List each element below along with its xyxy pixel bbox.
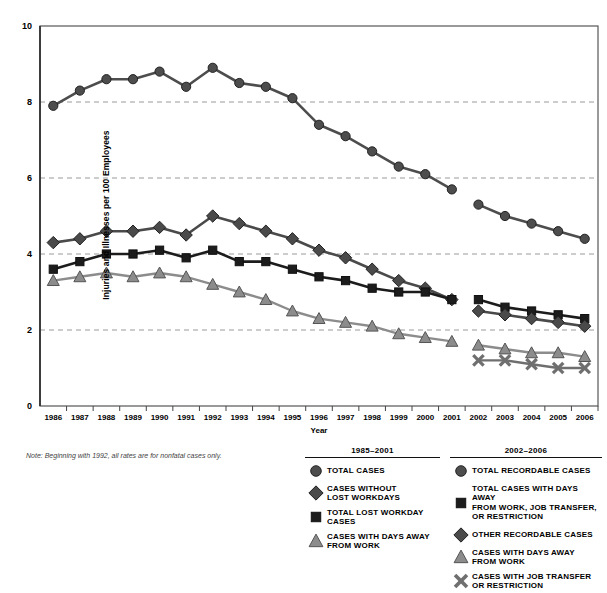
legend-2002-2006: 2002–2006TOTAL RECORDABLE CASESTOTAL CAS…	[450, 446, 602, 593]
circle-marker	[75, 86, 84, 95]
circle-marker	[474, 200, 483, 209]
legend-item-label: CASES WITH JOB TRANSFEROR RESTRICTION	[472, 572, 591, 591]
triangle-marker	[309, 534, 323, 547]
square-marker	[315, 273, 323, 281]
square-marker	[395, 288, 403, 296]
series-7	[472, 339, 590, 361]
circle-marker	[421, 170, 430, 179]
circle-marker	[500, 211, 509, 220]
diamond-marker	[153, 221, 165, 233]
square-marker	[155, 246, 163, 254]
circle-marker	[341, 132, 350, 141]
legend-title: 1985–2001	[305, 446, 440, 455]
circle-marker	[102, 75, 111, 84]
square-marker	[288, 265, 296, 273]
legend-item[interactable]: OTHER RECORDABLE CASES	[450, 527, 602, 543]
legend-item[interactable]: TOTAL CASES	[305, 463, 440, 479]
circle-marker	[155, 67, 164, 76]
legend-item-label: CASES WITHOUTLOST WORKDAYS	[327, 484, 400, 503]
legend-item[interactable]: TOTAL LOST WORKDAYCASES	[305, 508, 440, 527]
circle-marker	[554, 227, 563, 236]
diamond-marker	[313, 244, 325, 256]
square-marker	[182, 254, 190, 262]
diamond-marker	[74, 233, 86, 245]
y-tick-label: 6	[10, 173, 32, 183]
legend-item[interactable]: CASES WITH DAYS AWAYFROM WORK	[450, 548, 602, 567]
circle-marker	[580, 234, 589, 243]
circle-marker	[208, 63, 217, 72]
legend-item[interactable]: CASES WITH JOB TRANSFEROR RESTRICTION	[450, 572, 602, 591]
square-marker	[368, 284, 376, 292]
square-marker	[311, 513, 320, 522]
circle-marker	[447, 185, 456, 194]
series-line	[53, 68, 452, 190]
circle-marker	[261, 82, 270, 91]
circle-marker	[456, 466, 467, 477]
legend-item[interactable]: TOTAL CASES WITH DAYS AWAYFROM WORK, JOB…	[450, 484, 602, 522]
y-tick-label: 10	[10, 21, 32, 31]
series-line	[53, 216, 452, 300]
circle-marker	[314, 120, 323, 129]
circle-marker	[368, 147, 377, 156]
series-line	[53, 273, 452, 341]
square-marker	[341, 277, 349, 285]
legend-item-label: TOTAL CASES	[327, 466, 385, 475]
y-axis-title: Injuries and Illnesses per 100 Employees	[101, 105, 111, 325]
legend-divider	[450, 457, 602, 458]
triangle-marker	[305, 533, 327, 549]
legend-item[interactable]: CASES WITH DAYS AWAYFROM WORK	[305, 532, 440, 551]
diamond-marker	[454, 528, 468, 542]
diamond-marker	[393, 274, 405, 286]
x-axis-title: Year	[299, 426, 339, 435]
square-marker	[421, 288, 429, 296]
diamond-marker	[47, 236, 59, 248]
circle-marker	[49, 101, 58, 110]
circle-marker	[311, 466, 322, 477]
legend-item-label: TOTAL LOST WORKDAYCASES	[327, 508, 424, 527]
diamond-marker	[233, 217, 245, 229]
diamond-marker	[339, 252, 351, 264]
diamond-marker	[450, 527, 472, 543]
diamond-marker	[309, 486, 323, 500]
diamond-marker	[305, 485, 327, 501]
circle-marker	[288, 94, 297, 103]
diamond-marker	[260, 225, 272, 237]
y-tick-label: 8	[10, 97, 32, 107]
y-tick-label: 2	[10, 325, 32, 335]
legend-item[interactable]: CASES WITHOUTLOST WORKDAYS	[305, 484, 440, 503]
diamond-marker	[366, 263, 378, 275]
diamond-marker	[472, 305, 484, 317]
plot-frame	[40, 26, 598, 406]
square-marker	[49, 265, 57, 273]
circle-marker	[182, 82, 191, 91]
square-marker	[209, 246, 217, 254]
legend-item-label: CASES WITH DAYS AWAYFROM WORK	[472, 548, 575, 567]
y-tick-label: 0	[10, 401, 32, 411]
circle-marker	[394, 162, 403, 171]
legend-item-label: TOTAL CASES WITH DAYS AWAYFROM WORK, JOB…	[472, 484, 602, 522]
square-marker	[305, 509, 327, 525]
legend-item-label: CASES WITH DAYS AWAYFROM WORK	[327, 532, 430, 551]
chart-note: Note: Beginning with 1992, all rates are…	[26, 452, 222, 459]
legend-item[interactable]: TOTAL RECORDABLE CASES	[450, 463, 602, 479]
diamond-marker	[127, 225, 139, 237]
y-tick-label: 4	[10, 249, 32, 259]
circle-marker	[450, 463, 472, 479]
square-marker	[448, 296, 456, 304]
legend-divider	[305, 457, 440, 458]
square-marker	[474, 296, 482, 304]
legend-title: 2002–2006	[450, 446, 602, 455]
plot-area	[0, 0, 607, 440]
x-tick-label: 2006	[568, 413, 602, 422]
square-marker	[76, 258, 84, 266]
square-marker	[262, 258, 270, 266]
triangle-marker	[454, 550, 468, 563]
legend-item-label: TOTAL RECORDABLE CASES	[472, 466, 591, 475]
square-marker	[450, 495, 472, 511]
legend-item-label: OTHER RECORDABLE CASES	[472, 530, 593, 539]
diamond-marker	[286, 233, 298, 245]
square-marker	[235, 258, 243, 266]
series-4	[474, 200, 589, 243]
circle-marker	[235, 78, 244, 87]
